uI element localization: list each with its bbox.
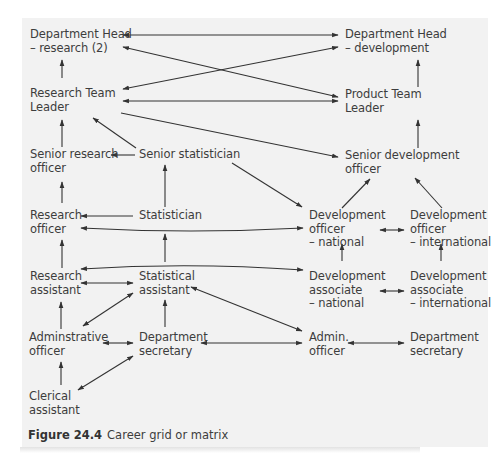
- node-research-team-leader: Research Team Leader: [30, 87, 116, 114]
- node-product-team-leader: Product Team Leader: [345, 88, 422, 115]
- figure-label: Figure 24.4: [28, 428, 102, 442]
- arrow-ss-to-don: [232, 163, 302, 207]
- arrow-ao-sa: [83, 293, 133, 326]
- node-admin-officer: Admin. officer: [309, 331, 349, 358]
- node-administrative-officer: Adminstrative officer: [29, 331, 108, 358]
- node-statistician: Statistician: [139, 209, 202, 223]
- figure-caption: Figure 24.4Career grid or matrix: [28, 428, 228, 442]
- node-statistical-assistant: Statistical assistant: [139, 270, 195, 297]
- node-development-officer-international: Development officer – international: [410, 209, 491, 250]
- node-research-officer: Research officer: [30, 209, 82, 236]
- node-department-secretary-1: Department secretary: [139, 331, 208, 358]
- arrow-doi-to-sdo: [415, 178, 442, 208]
- node-senior-development-officer: Senior development officer: [345, 149, 459, 176]
- arrow-ro-don: [81, 228, 303, 231]
- node-dept-head-research: Department Head – research (2): [30, 28, 132, 55]
- node-development-officer-national: Development officer – national: [309, 209, 385, 250]
- arrow-ss-to-rtl: [93, 118, 136, 148]
- figure-title: Career grid or matrix: [107, 428, 228, 442]
- arrow-rtl-dhd: [123, 47, 338, 89]
- node-department-secretary-2: Department secretary: [410, 331, 479, 358]
- node-research-assistant: Research assistant: [30, 270, 82, 297]
- arrow-dhr-ptl: [123, 47, 338, 97]
- arrow-sa-admin: [191, 287, 302, 331]
- node-development-associate-national: Development associate – national: [309, 270, 385, 311]
- node-senior-research-officer: Senior research officer: [30, 148, 119, 175]
- node-senior-statistician: Senior statistician: [139, 148, 240, 162]
- arrow-don-to-sdo: [342, 179, 370, 208]
- arrow-ca-ds: [78, 356, 133, 390]
- node-clerical-assistant: Clerical assistant: [29, 390, 80, 417]
- node-dept-head-development: Department Head – development: [345, 28, 447, 55]
- node-development-associate-international: Development associate – international: [410, 270, 491, 311]
